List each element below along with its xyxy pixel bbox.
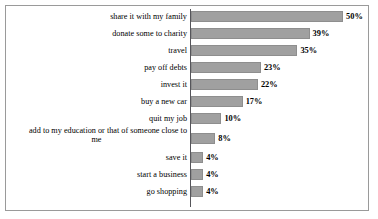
category-label: donate some to charity — [6, 26, 187, 38]
bar-track: 4% — [191, 186, 368, 197]
category-label-line: go shopping — [147, 187, 187, 196]
bar-track: 10% — [191, 113, 368, 124]
bar-value-label: 4% — [203, 152, 219, 163]
bar-row[interactable]: donate some to charity39% — [6, 26, 368, 43]
category-label: add to my education or that of someone c… — [6, 123, 187, 144]
bar-value-label: 22% — [258, 79, 278, 90]
category-label: quit my job — [6, 111, 187, 123]
category-label-line: pay off debts — [144, 63, 187, 72]
bar[interactable] — [191, 186, 203, 197]
category-label-line: invest it — [161, 80, 187, 89]
bar-row[interactable]: travel35% — [6, 43, 368, 60]
category-label: share it with my family — [6, 9, 187, 21]
bar-track: 22% — [191, 79, 368, 90]
bar[interactable] — [191, 96, 243, 107]
bar-value-label: 50% — [343, 11, 363, 22]
category-label-line: save it — [166, 153, 187, 162]
category-label: travel — [6, 43, 187, 55]
bar-track: 8% — [191, 133, 368, 144]
bar[interactable] — [191, 169, 203, 180]
bar-track: 4% — [191, 152, 368, 163]
bar-row[interactable]: start a business4% — [6, 167, 368, 184]
bar[interactable] — [191, 133, 215, 144]
bar[interactable] — [191, 62, 261, 73]
category-label: go shopping — [6, 184, 187, 196]
bar-row[interactable]: share it with my family50% — [6, 9, 368, 26]
category-label-line: travel — [168, 46, 187, 55]
bar[interactable] — [191, 79, 258, 90]
category-label-line: start a business — [137, 170, 187, 179]
category-label: invest it — [6, 77, 187, 89]
bar-track: 4% — [191, 169, 368, 180]
category-label: buy a new car — [6, 94, 187, 106]
bar-track: 17% — [191, 96, 368, 107]
category-label-line: donate some to charity — [112, 29, 187, 38]
bar-track: 39% — [191, 28, 368, 39]
category-label-line: quit my job — [149, 114, 187, 123]
bar-value-label: 23% — [261, 62, 281, 73]
category-label-line: share it with my family — [110, 12, 187, 21]
bar-row[interactable]: go shopping4% — [6, 184, 368, 201]
bar-track: 50% — [191, 11, 368, 22]
bar[interactable] — [191, 11, 343, 22]
bar-rows: share it with my family50%donate some to… — [6, 9, 368, 201]
bar-value-label: 17% — [243, 96, 263, 107]
bar-track: 35% — [191, 45, 368, 56]
bar-track: 23% — [191, 62, 368, 73]
category-label-line: buy a new car — [141, 97, 187, 106]
bar-row[interactable]: buy a new car17% — [6, 94, 368, 111]
bar-row[interactable]: pay off debts23% — [6, 60, 368, 77]
bar-value-label: 35% — [297, 45, 317, 56]
category-label: start a business — [6, 167, 187, 179]
bar-row[interactable]: invest it22% — [6, 77, 368, 94]
plot-area: share it with my family50%donate some to… — [6, 6, 368, 210]
category-label: pay off debts — [6, 60, 187, 72]
bar[interactable] — [191, 28, 310, 39]
bar-value-label: 10% — [221, 113, 241, 124]
bar-value-label: 39% — [310, 28, 330, 39]
bar-value-label: 8% — [215, 133, 231, 144]
category-label-line: me — [6, 135, 187, 144]
category-label-line: add to my education or that of someone c… — [29, 126, 187, 135]
bar-value-label: 4% — [203, 169, 219, 180]
bar[interactable] — [191, 113, 221, 124]
bar-row[interactable]: save it4% — [6, 150, 368, 167]
chart-frame: share it with my family50%donate some to… — [5, 5, 369, 211]
bar-value-label: 4% — [203, 186, 219, 197]
category-label: save it — [6, 150, 187, 162]
bar[interactable] — [191, 152, 203, 163]
bar[interactable] — [191, 45, 297, 56]
bar-row[interactable]: add to my education or that of someone c… — [6, 128, 368, 150]
